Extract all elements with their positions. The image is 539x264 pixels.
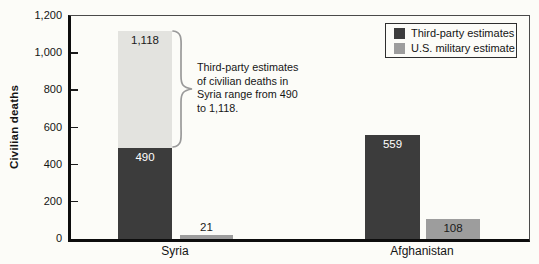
bar-value-label: 1,118: [118, 34, 172, 47]
y-tick-mark: [71, 52, 78, 54]
y-tick-label: 200: [0, 194, 62, 208]
y-axis-tick-labels: 02004006008001,0001,200: [0, 15, 62, 238]
y-tick-mark: [71, 201, 78, 203]
legend-label: U.S. military estimate: [411, 42, 515, 54]
y-tick-label: 400: [0, 157, 62, 171]
bar-syria-us-military: 21: [180, 235, 233, 239]
civilian-deaths-bar-chart: Civilian deaths 02004006008001,0001,200 …: [0, 0, 539, 264]
legend-item-us-military: U.S. military estimate: [394, 42, 516, 54]
y-tick-label: 0: [0, 231, 62, 245]
bar-syria-third-party: 490: [118, 148, 172, 239]
x-axis-label-syria: Syria: [125, 244, 225, 258]
y-tick-label: 800: [0, 82, 62, 96]
y-tick-label: 600: [0, 120, 62, 134]
range-brace: [170, 29, 196, 149]
x-axis-label-afghanistan: Afghanistan: [372, 244, 472, 258]
legend-swatch-third-party: [394, 28, 405, 39]
bar-afghanistan-third-party: 559: [365, 135, 420, 239]
annotation-line: of civilian deaths in: [197, 75, 327, 89]
legend-label: Third-party estimates: [411, 27, 514, 39]
bar-value-label: 21: [180, 221, 233, 234]
y-tick-mark: [71, 89, 78, 91]
bar-afghanistan-us-military: 108: [426, 219, 480, 239]
legend-item-third-party: Third-party estimates: [394, 27, 516, 39]
bar-value-label: 559: [365, 138, 420, 151]
y-tick-mark: [71, 164, 78, 166]
legend: Third-party estimates U.S. military esti…: [385, 23, 517, 58]
legend-swatch-us-military: [394, 43, 405, 54]
bar-value-label: 490: [118, 151, 172, 164]
y-tick-mark: [71, 127, 78, 129]
annotation-text: Third-party estimates of civilian deaths…: [197, 61, 327, 115]
bar-value-label: 108: [426, 222, 480, 235]
annotation-line: Syria range from 490: [197, 88, 327, 102]
y-tick-label: 1,000: [0, 45, 62, 59]
annotation-line: Third-party estimates: [197, 61, 327, 75]
annotation-line: to 1,118.: [197, 102, 327, 116]
y-tick-label: 1,200: [0, 8, 62, 22]
